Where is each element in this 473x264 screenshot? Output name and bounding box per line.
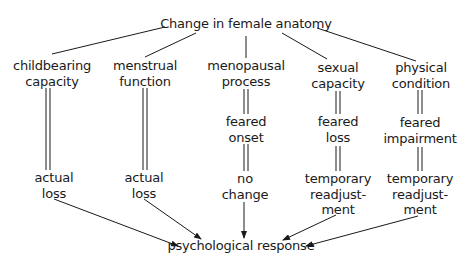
category-line: physical	[392, 60, 450, 76]
stage-line: feared	[226, 114, 267, 130]
category-menopausal-process: menopausal process	[207, 58, 285, 89]
category-childbearing-capacity: childbearing capacity	[13, 58, 91, 89]
stage-temporary-readjustment-1: temporary readjust- ment	[305, 171, 372, 218]
stage-line: onset	[226, 130, 267, 146]
category-menstrual-function: menstrual function	[113, 58, 177, 89]
edge-root-sexual	[282, 33, 327, 59]
arrow-col2-to-response	[144, 199, 201, 239]
edge-root-physical	[317, 28, 416, 61]
stage-line: no	[222, 171, 269, 187]
category-line: sexual	[311, 60, 364, 76]
category-line: function	[113, 74, 177, 90]
category-line: menopausal	[207, 58, 285, 74]
category-line: condition	[392, 76, 450, 92]
stage-line: actual	[125, 170, 164, 186]
category-line: capacity	[13, 74, 91, 90]
stage-line: ment	[387, 202, 454, 218]
stage-line: ment	[305, 202, 372, 218]
category-sexual-capacity: sexual capacity	[311, 60, 364, 91]
arrow-col4-to-response	[283, 215, 336, 240]
stage-line: change	[222, 187, 269, 203]
edge-root-menstrual	[145, 33, 196, 57]
category-line: childbearing	[13, 58, 91, 74]
stage-line: impairment	[383, 131, 456, 147]
root-label: Change in female anatomy	[160, 16, 332, 32]
stage-feared-onset: feared onset	[226, 114, 267, 145]
stage-line: loss	[35, 186, 74, 202]
category-line: process	[207, 74, 285, 90]
stage-line: readjust-	[387, 187, 454, 203]
stage-line: temporary	[387, 171, 454, 187]
stage-actual-loss-1: actual loss	[35, 170, 74, 201]
stage-line: loss	[318, 130, 359, 146]
stage-line: temporary	[305, 171, 372, 187]
arrow-col1-to-response	[54, 199, 178, 246]
root-node: Change in female anatomy	[160, 16, 332, 32]
arrow-col5-to-response	[306, 216, 418, 246]
stage-line: loss	[125, 186, 164, 202]
category-line: menstrual	[113, 58, 177, 74]
stage-line: actual	[35, 170, 74, 186]
stage-line: feared	[383, 115, 456, 131]
diagram: Change in female anatomy childbearing ca…	[0, 0, 473, 264]
edge-root-childbearing	[52, 27, 165, 54]
sink-psychological-response: psychological response	[168, 238, 315, 254]
stage-no-change: no change	[222, 171, 269, 202]
stage-actual-loss-2: actual loss	[125, 170, 164, 201]
stage-temporary-readjustment-2: temporary readjust- ment	[387, 171, 454, 218]
stage-feared-impairment: feared impairment	[383, 115, 456, 146]
category-line: capacity	[311, 76, 364, 92]
category-physical-condition: physical condition	[392, 60, 450, 91]
stage-line: feared	[318, 114, 359, 130]
stage-feared-loss: feared loss	[318, 114, 359, 145]
stage-line: readjust-	[305, 187, 372, 203]
sink-label: psychological response	[168, 238, 315, 254]
